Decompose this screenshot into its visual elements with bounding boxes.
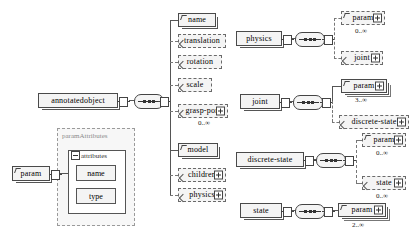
connector-stub-seq-annotatedobject	[160, 97, 169, 107]
node-model-label: model	[188, 146, 209, 154]
branch-line-physics-joint	[334, 58, 341, 59]
connector-stub-seq-discrete-state	[345, 156, 354, 166]
expand-plus-icon[interactable]	[375, 82, 384, 91]
node-param-root-label: param	[21, 170, 42, 178]
attribute-name-label: name	[87, 169, 104, 178]
branch-line-joint-discrete-state	[332, 122, 339, 123]
seq-bar	[138, 101, 160, 102]
node-annotatedobject-label: annotatedobject	[51, 97, 105, 105]
spine-annotatedobject	[170, 20, 171, 195]
seq-bar	[320, 160, 342, 161]
sequence-compositor-discrete-state[interactable]	[316, 153, 346, 168]
seq-bar	[299, 39, 321, 40]
expand-plus-icon[interactable]	[394, 136, 403, 145]
expand-plus-icon[interactable]	[374, 206, 383, 215]
required-marker-icon	[343, 13, 350, 18]
node-physics-root-label: physics	[246, 35, 271, 43]
attributes-header-label: attributes	[81, 152, 107, 160]
expand-plus-icon[interactable]	[216, 107, 225, 116]
connector-stub-annotatedobject	[119, 97, 128, 107]
node-children[interactable]: children	[178, 168, 226, 182]
collapse-minus-icon[interactable]	[71, 151, 80, 160]
seq-bar	[297, 102, 319, 103]
node-ds-param-label: param	[374, 136, 395, 144]
node-param-root[interactable]: param	[12, 166, 50, 181]
expand-plus-icon[interactable]	[214, 191, 223, 200]
attribute-type[interactable]: type	[76, 188, 116, 204]
node-joint-root[interactable]: joint	[240, 94, 280, 109]
branch-line-children	[170, 175, 178, 176]
node-physics-joint[interactable]: joint	[341, 51, 383, 65]
node-translation[interactable]: translation	[178, 34, 226, 48]
expand-plus-icon[interactable]	[373, 14, 382, 23]
node-ds-state-label: state	[376, 179, 392, 187]
node-state-param[interactable]: param	[338, 203, 386, 217]
branch-line-name	[170, 20, 178, 21]
attribute-type-label: type	[89, 192, 103, 201]
cardinality-state-param: 2..∞	[352, 221, 364, 229]
node-translation-label: translation	[184, 37, 220, 45]
node-joint-param[interactable]: param	[341, 79, 387, 93]
node-annotatedobject[interactable]: annotatedobject	[38, 93, 118, 108]
sequence-compositor-physics[interactable]	[295, 32, 325, 47]
connector-stub-joint	[281, 98, 290, 108]
seq-bar	[299, 211, 321, 212]
node-rotation[interactable]: rotation	[178, 55, 222, 69]
branch-line-grasp-port	[170, 111, 178, 112]
branch-line-model	[170, 150, 178, 151]
expand-plus-icon[interactable]	[371, 54, 380, 63]
optional-marker-icon	[363, 182, 371, 190]
node-state-param-label: param	[352, 206, 373, 214]
cardinality-grasp-port: 0..∞	[198, 119, 210, 127]
node-physics-joint-label: joint	[354, 54, 370, 62]
connector-stub-param	[51, 170, 60, 180]
required-marker-icon	[343, 81, 350, 86]
node-scale-label: scale	[187, 81, 204, 89]
node-physics-param[interactable]: param	[341, 11, 385, 25]
optional-marker-icon	[179, 174, 187, 182]
node-grasp-port[interactable]: grasp-port	[178, 104, 228, 118]
node-ds-state[interactable]: state	[362, 176, 406, 190]
node-discrete-state-root[interactable]: discrete-state	[236, 152, 304, 167]
connector-stub-seq-physics	[324, 35, 333, 45]
node-joint-discrete-state[interactable]: discrete-state	[339, 115, 409, 129]
sequence-compositor-joint[interactable]	[293, 95, 323, 110]
connector-stub-discrete-state	[305, 156, 314, 166]
node-scale[interactable]: scale	[178, 78, 212, 92]
cardinality-ds-state: 0..∞	[376, 192, 388, 200]
node-physics-root[interactable]: physics	[236, 31, 282, 46]
optional-marker-icon	[179, 194, 187, 202]
sequence-compositor-state[interactable]	[295, 204, 325, 219]
branch-line-physics-param	[334, 18, 341, 19]
cardinality-ds-param: 0..∞	[376, 149, 388, 157]
node-physics-param-label: param	[353, 14, 374, 22]
connector-stub-seq-joint	[322, 98, 331, 108]
branch-line-rotation	[170, 62, 178, 63]
expand-plus-icon[interactable]	[397, 118, 406, 127]
node-ds-param[interactable]: param	[362, 133, 406, 147]
spine-joint-upper	[332, 86, 333, 101]
attribute-name[interactable]: name	[76, 165, 116, 181]
cardinality-physics-param: 0..∞	[355, 27, 367, 35]
node-joint-discrete-state-label: discrete-state	[352, 118, 397, 126]
spine-physics	[334, 18, 335, 59]
optional-marker-icon	[340, 121, 348, 129]
node-joint-param-label: param	[354, 82, 375, 90]
spine-joint-lower	[332, 101, 333, 122]
node-children-label: children	[188, 171, 216, 179]
node-model[interactable]: model	[178, 143, 218, 157]
node-discrete-state-root-label: discrete-state	[248, 156, 293, 164]
required-marker-icon	[180, 15, 187, 20]
node-rotation-label: rotation	[187, 58, 213, 66]
connector-stub-seq-state	[324, 207, 333, 217]
optional-marker-icon	[342, 57, 350, 65]
expand-plus-icon[interactable]	[394, 179, 403, 188]
connector-stub-physics	[283, 35, 292, 45]
node-physics-child[interactable]: physics	[178, 188, 226, 202]
node-state-root[interactable]: state	[240, 203, 282, 218]
node-name[interactable]: name	[178, 13, 216, 27]
node-joint-root-label: joint	[252, 98, 268, 106]
connector-stub-state	[283, 207, 292, 217]
required-marker-icon	[340, 205, 347, 210]
expand-plus-icon[interactable]	[214, 171, 223, 180]
